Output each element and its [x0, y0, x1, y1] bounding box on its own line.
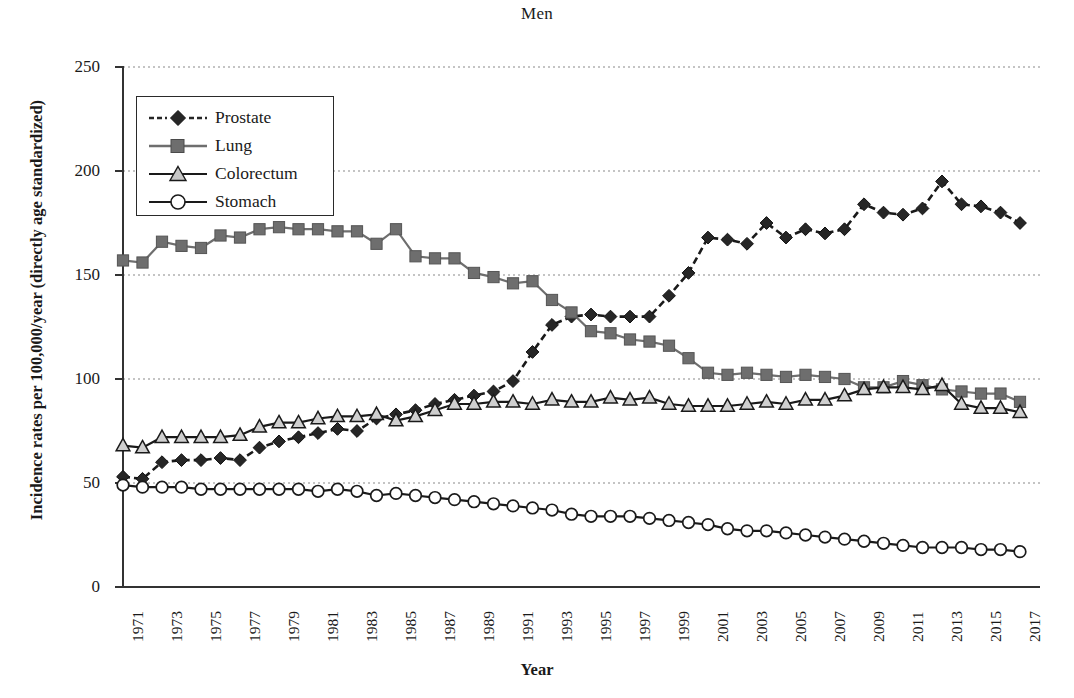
data-point-stomach	[741, 525, 753, 537]
data-point-stomach	[995, 544, 1007, 556]
data-point-stomach	[858, 535, 870, 547]
data-point-prostate	[975, 200, 988, 213]
data-point-stomach	[839, 533, 851, 545]
data-point-prostate	[702, 231, 715, 244]
data-point-stomach	[936, 542, 948, 554]
chart-container: Men Incidence rates per 100,000/year (di…	[0, 0, 1074, 698]
data-point-prostate	[292, 431, 305, 444]
data-point-prostate	[1014, 217, 1027, 230]
data-point-prostate	[819, 227, 832, 240]
data-point-stomach	[819, 531, 831, 543]
data-point-lung	[702, 367, 713, 378]
data-point-prostate	[721, 233, 734, 246]
data-point-stomach	[566, 508, 578, 520]
data-point-lung	[488, 271, 499, 282]
data-point-lung	[995, 388, 1006, 399]
data-point-lung	[351, 226, 362, 237]
data-point-stomach	[722, 523, 734, 535]
data-point-lung	[507, 278, 518, 289]
data-point-stomach	[956, 542, 968, 554]
legend: Prostate Lung Colorectum	[136, 96, 334, 216]
data-point-lung	[780, 371, 791, 382]
data-point-prostate	[214, 452, 227, 465]
data-point-prostate	[994, 206, 1007, 219]
legend-item-lung: Lung	[137, 132, 333, 160]
data-point-stomach	[215, 483, 227, 495]
data-point-stomach	[624, 510, 636, 522]
data-point-colorectum	[604, 391, 618, 403]
data-point-prostate	[799, 223, 812, 236]
data-point-lung	[156, 236, 167, 247]
data-point-colorectum	[370, 407, 384, 419]
data-point-stomach	[137, 481, 149, 493]
data-point-stomach	[468, 496, 480, 508]
data-point-stomach	[195, 483, 207, 495]
legend-key-prostate	[147, 108, 209, 128]
data-point-prostate	[312, 427, 325, 440]
data-point-stomach	[176, 481, 188, 493]
data-point-lung	[546, 294, 557, 305]
data-point-stomach	[878, 538, 890, 550]
legend-key-stomach	[147, 192, 209, 212]
data-point-stomach	[975, 544, 987, 556]
data-point-lung	[566, 307, 577, 318]
data-point-lung	[800, 369, 811, 380]
data-point-lung	[819, 371, 830, 382]
data-point-lung	[273, 222, 284, 233]
data-point-prostate	[877, 206, 890, 219]
data-point-stomach	[780, 527, 792, 539]
data-point-lung	[741, 367, 752, 378]
data-point-stomach	[332, 483, 344, 495]
data-point-stomach	[917, 542, 929, 554]
data-point-lung	[254, 224, 265, 235]
legend-key-lung	[147, 136, 209, 156]
data-point-stomach	[156, 481, 168, 493]
data-point-lung	[390, 224, 401, 235]
data-point-lung	[449, 253, 460, 264]
data-point-stomach	[429, 492, 441, 504]
legend-label-prostate: Prostate	[209, 109, 271, 127]
data-point-lung	[975, 388, 986, 399]
data-point-stomach	[585, 510, 597, 522]
legend-label-colorectum: Colorectum	[209, 165, 298, 183]
data-point-lung	[683, 353, 694, 364]
data-point-stomach	[234, 483, 246, 495]
data-point-stomach	[527, 502, 539, 514]
data-point-lung	[605, 328, 616, 339]
data-point-stomach	[293, 483, 305, 495]
data-point-prostate	[741, 237, 754, 250]
data-point-lung	[137, 257, 148, 268]
data-point-prostate	[604, 310, 617, 323]
data-point-stomach	[644, 513, 656, 525]
data-point-lung	[215, 230, 226, 241]
data-point-lung	[234, 232, 245, 243]
data-point-prostate	[916, 202, 929, 215]
data-point-lung	[429, 253, 440, 264]
data-point-prostate	[195, 454, 208, 467]
data-point-colorectum	[545, 393, 559, 405]
data-point-lung	[468, 267, 479, 278]
data-point-stomach	[897, 540, 909, 552]
data-point-stomach	[371, 490, 383, 502]
data-point-colorectum	[643, 391, 657, 403]
data-point-lung	[293, 224, 304, 235]
legend-item-colorectum: Colorectum	[137, 160, 333, 188]
data-point-prostate	[234, 454, 247, 467]
legend-item-stomach: Stomach	[137, 188, 333, 216]
data-point-lung	[410, 251, 421, 262]
data-point-lung	[312, 224, 323, 235]
data-point-prostate	[897, 208, 910, 221]
data-point-prostate	[273, 435, 286, 448]
data-point-lung	[624, 334, 635, 345]
data-point-lung	[663, 340, 674, 351]
data-point-stomach	[488, 498, 500, 510]
data-point-lung	[332, 226, 343, 237]
data-point-lung	[761, 369, 772, 380]
data-point-stomach	[605, 510, 617, 522]
data-point-colorectum	[116, 438, 130, 450]
data-point-stomach	[273, 483, 285, 495]
data-point-stomach	[683, 517, 695, 529]
data-point-stomach	[117, 479, 129, 491]
data-point-lung	[195, 242, 206, 253]
legend-label-stomach: Stomach	[209, 193, 276, 211]
